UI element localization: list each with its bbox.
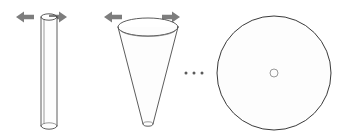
shape-continuum-diagram bbox=[0, 0, 347, 139]
cylinder-shape bbox=[41, 14, 57, 129]
cylinder-group bbox=[16, 12, 67, 130]
cone-arrow-left-icon bbox=[104, 12, 122, 23]
cylinder-arrow-left-icon bbox=[16, 12, 34, 23]
ellipsis-dots bbox=[185, 72, 204, 75]
figure-container: Shape continuum: cylinder to cone to dis… bbox=[0, 0, 347, 139]
cone-group bbox=[104, 12, 180, 127]
cone-shape bbox=[118, 18, 178, 126]
disk-group bbox=[217, 16, 331, 130]
